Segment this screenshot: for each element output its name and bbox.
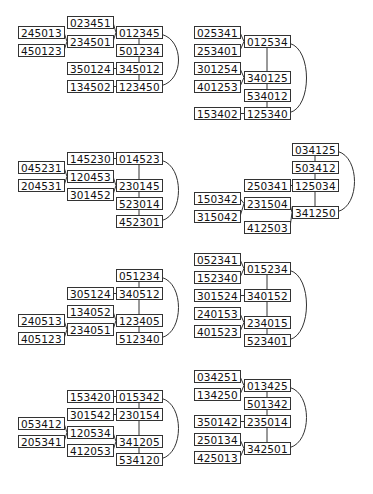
permutation-node: 301254	[194, 62, 241, 75]
permutation-node: 013425	[244, 379, 291, 392]
permutation-node: 234051	[67, 323, 114, 336]
permutation-node: 123405	[116, 314, 163, 327]
permutation-node: 023451	[67, 16, 114, 29]
permutation-node: 305124	[67, 287, 114, 300]
permutation-node: 120534	[67, 426, 114, 439]
permutation-node: 534012	[244, 89, 291, 102]
permutation-node: 240153	[194, 307, 241, 320]
permutation-node: 341250	[292, 206, 339, 219]
permutation-node: 053412	[18, 417, 65, 430]
permutation-node: 253401	[194, 44, 241, 57]
permutation-node: 145230	[67, 152, 114, 165]
permutation-node: 052341	[194, 253, 241, 266]
permutation-node: 125340	[244, 107, 291, 120]
permutation-node: 340152	[244, 289, 291, 302]
permutation-node: 034125	[292, 143, 339, 156]
arc-edge	[338, 152, 355, 212]
permutation-node: 230154	[116, 408, 163, 421]
permutation-node: 340512	[116, 287, 163, 300]
permutation-node: 523401	[244, 334, 291, 347]
permutation-node: 315042	[194, 210, 241, 223]
permutation-node: 153402	[194, 107, 241, 120]
permutation-node: 051234	[116, 269, 163, 282]
permutation-node: 250134	[194, 433, 241, 446]
permutation-node: 134502	[67, 80, 114, 93]
permutation-node: 350124	[67, 62, 114, 75]
arc-edge	[290, 44, 307, 113]
permutation-node: 501234	[116, 44, 163, 57]
permutation-node: 450123	[18, 44, 65, 57]
permutation-node: 034251	[194, 370, 241, 383]
arc-edge	[162, 35, 179, 86]
permutation-node: 501342	[244, 397, 291, 410]
permutation-node: 345012	[116, 62, 163, 75]
permutation-node: 120453	[67, 170, 114, 183]
permutation-node: 342501	[244, 442, 291, 455]
permutation-node: 231504	[244, 197, 291, 210]
arc-edge	[290, 271, 307, 340]
permutation-node: 045231	[18, 161, 65, 174]
permutation-node: 134052	[67, 305, 114, 318]
permutation-node: 350142	[194, 415, 241, 428]
permutation-node: 425013	[194, 451, 241, 464]
permutation-node: 123450	[116, 80, 163, 93]
permutation-node: 015234	[244, 262, 291, 275]
permutation-node: 150342	[194, 192, 241, 205]
permutation-node: 523014	[116, 197, 163, 210]
permutation-node: 205341	[18, 435, 65, 448]
permutation-node: 405123	[18, 332, 65, 345]
permutation-node: 015342	[116, 390, 163, 403]
permutation-node: 014523	[116, 152, 163, 165]
permutation-node: 250341	[244, 179, 291, 192]
permutation-node: 301452	[67, 188, 114, 201]
arc-edge	[162, 278, 179, 338]
permutation-node: 412503	[244, 221, 291, 234]
permutation-node: 153420	[67, 390, 114, 403]
permutation-node: 534120	[116, 453, 163, 466]
permutation-node: 340125	[244, 71, 291, 84]
permutation-node: 025341	[194, 26, 241, 39]
arc-edge	[162, 161, 179, 221]
arc-edge	[290, 388, 307, 448]
permutation-node: 401523	[194, 325, 241, 338]
permutation-node: 230145	[116, 179, 163, 192]
permutation-node: 152340	[194, 271, 241, 284]
permutation-node: 012345	[116, 26, 163, 39]
permutation-node: 301524	[194, 289, 241, 302]
permutation-node: 452301	[116, 215, 163, 228]
permutation-node: 341205	[116, 435, 163, 448]
arc-edge	[162, 399, 179, 459]
permutation-node: 012534	[244, 35, 291, 48]
permutation-node: 204531	[18, 179, 65, 192]
permutation-node: 235014	[244, 415, 291, 428]
permutation-node: 412053	[67, 444, 114, 457]
permutation-node: 245013	[18, 26, 65, 39]
permutation-node: 134250	[194, 388, 241, 401]
permutation-node: 503412	[292, 161, 339, 174]
permutation-node: 125034	[292, 179, 339, 192]
permutation-node: 234015	[244, 316, 291, 329]
permutation-node: 401253	[194, 80, 241, 93]
permutation-node: 301542	[67, 408, 114, 421]
permutation-node: 234501	[67, 35, 114, 48]
permutation-node: 240513	[18, 314, 65, 327]
permutation-node: 512340	[116, 332, 163, 345]
